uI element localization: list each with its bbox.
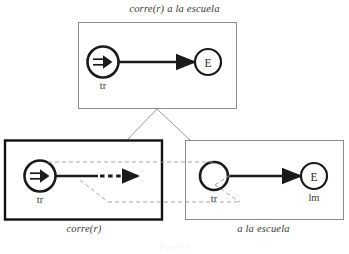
top-box-e-node[interactable]: E <box>195 49 221 75</box>
bottom-right-box[interactable]: tr E lm <box>186 141 344 220</box>
tr-node-circle <box>200 162 228 190</box>
e-node-text: E <box>204 57 211 69</box>
e-node-text: E <box>310 171 317 183</box>
bottom-left-tr-node[interactable] <box>25 161 56 192</box>
top-box[interactable]: tr E <box>79 23 237 109</box>
bottom-right-tr-node[interactable] <box>200 162 228 190</box>
bottom-right-lm-label: lm <box>308 192 319 203</box>
bottom-right-e-node[interactable]: E <box>301 163 327 189</box>
inheritance-connectors <box>127 109 190 140</box>
diagram-canvas: tr E tr <box>0 0 349 254</box>
bottom-left-tr-label: tr <box>37 194 44 205</box>
top-box-tr-label: tr <box>100 80 107 91</box>
connector-top-to-bottom-right <box>157 109 190 140</box>
top-box-tr-node[interactable] <box>88 47 119 78</box>
bottom-left-box[interactable]: tr <box>5 141 162 220</box>
figure-root: corre(r) a la escuela corre(r) a la escu… <box>0 0 349 254</box>
connector-top-to-bottom-left <box>127 109 157 140</box>
